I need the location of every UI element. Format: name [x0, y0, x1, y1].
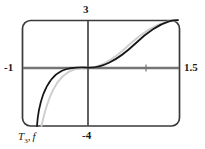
plot-canvas — [0, 0, 205, 149]
x-max-label: 1.5 — [184, 62, 198, 73]
y-min-label: -4 — [82, 130, 91, 141]
curve-legend-f: f — [30, 130, 35, 142]
curve-legend-label: T3, f — [18, 131, 36, 145]
y-max-label: 3 — [83, 4, 89, 15]
plot-figure: 3 -1 1.5 -4 T3, f — [0, 0, 205, 149]
x-min-label: -1 — [4, 62, 13, 73]
